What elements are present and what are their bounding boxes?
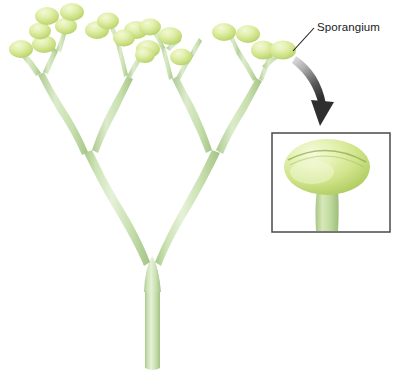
inset-sporangium-highlight [290,160,334,184]
sporangium-cap [29,23,51,40]
figure-root: Sporangium [0,0,397,370]
branch-left-primary [84,150,150,266]
branch-right-secondary-a [172,76,212,153]
sporangium-cap [158,27,182,45]
branch-right-secondary-b [216,78,262,154]
twig-m1 [161,46,173,80]
branch-left-secondary-a [38,72,88,155]
sporangium-cap [97,13,119,30]
sporangium-label: Sporangium [317,21,380,33]
branch-left-secondary-b [92,76,133,153]
sporangium-cap [113,30,135,47]
magnified-sporangium-inset [272,133,390,232]
twig-m5 [190,38,202,56]
sporangium-cap [170,49,192,66]
sporangium-cap [212,23,236,41]
sporangium-cap [139,19,161,36]
sporangium-leader-line [293,28,314,51]
sporangium-cap [35,7,59,25]
sporangium-cap [9,40,33,58]
twig-l5 [116,42,128,77]
sporangium-cap [135,47,155,63]
sporangium-cap [236,25,260,43]
sporangium-cap-labeled [270,41,296,60]
magnification-arrow [292,56,334,126]
sporangium-cap [60,3,84,21]
branch-right-primary [155,150,220,266]
plant-axis-group [21,24,286,370]
sporangium-illustration [0,0,397,370]
